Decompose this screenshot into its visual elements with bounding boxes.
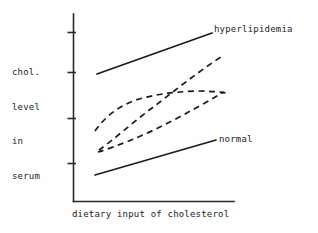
x-axis-label: dietary input of cholesterol [72,209,229,221]
series-line-individual-response-a [95,91,227,131]
annotation-hyperlipidemia: hyperlipidemia [214,24,293,36]
y-axis-label-line-3: in [12,136,40,148]
cholesterol-response-chart: chol. level in serum dietary input of ch… [0,0,318,233]
annotation-normal: normal [219,134,253,146]
y-axis-label-line-4: serum [12,171,40,183]
y-axis-label: chol. level in serum [12,44,40,205]
y-axis-label-line-2: level [12,102,40,114]
series-line-hyperlipidemia [97,33,212,74]
y-axis-label-line-1: chol. [12,67,40,79]
series-line-normal [95,140,216,175]
